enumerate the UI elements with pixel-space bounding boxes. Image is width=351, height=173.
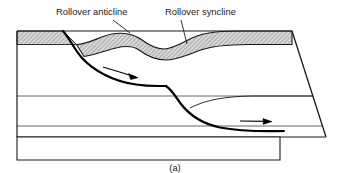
geological-cross-section-diagram: Rollover anticline Rollover syncline (a) <box>0 0 351 173</box>
basement-box-outline <box>17 137 280 160</box>
rollover-anticline-label: Rollover anticline <box>56 6 127 17</box>
rollover-syncline-label: Rollover syncline <box>165 6 236 17</box>
basement-box-group <box>17 137 280 160</box>
figure-caption: (a) <box>169 162 180 173</box>
figure-container: Rollover anticline Rollover syncline (a) <box>0 0 351 173</box>
